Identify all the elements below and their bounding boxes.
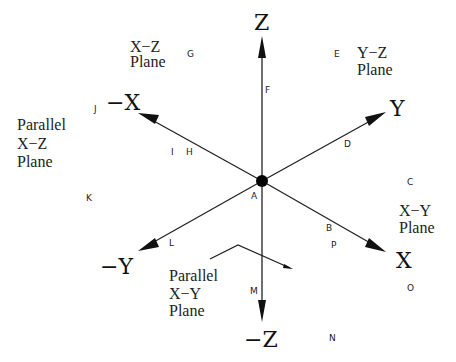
svg-text:Plane: Plane — [169, 302, 205, 319]
svg-text:Y−Z: Y−Z — [357, 44, 387, 61]
point-label-f: F — [265, 85, 270, 95]
z-arrow-head — [258, 36, 266, 58]
point-label-e: E — [334, 49, 340, 59]
parallel-xy-plane-label: Parallel X−Y Plane — [169, 267, 218, 319]
svg-text:Plane: Plane — [357, 61, 393, 78]
xy-plane-label: X−Y Plane — [399, 202, 435, 236]
parallel-xy-leader-line — [210, 245, 290, 268]
point-label-p: P — [331, 240, 337, 250]
x-arrow-head — [365, 238, 386, 252]
svg-text:Plane: Plane — [399, 219, 435, 236]
xz-plane-label: X−Z Plane — [130, 38, 166, 70]
neg-y-axis-label: −Y — [100, 254, 133, 279]
parallel-xz-plane-label: Parallel X−Z Plane — [17, 116, 66, 170]
x-axis-negative — [152, 120, 262, 181]
point-label-o: O — [407, 283, 414, 293]
point-label-g: G — [187, 49, 194, 59]
point-label-b: B — [326, 223, 332, 233]
x-axis-positive — [262, 181, 372, 244]
point-label-m: M — [250, 286, 258, 296]
point-label-l: L — [169, 238, 174, 248]
neg-z-axis-label: −Z — [244, 327, 278, 352]
yz-plane-label: Y−Z Plane — [357, 44, 393, 78]
point-label-k: K — [86, 193, 93, 203]
point-label-h: H — [186, 147, 193, 157]
svg-text:Parallel: Parallel — [169, 267, 218, 284]
neg-z-arrow-head — [258, 300, 266, 322]
origin-dot — [256, 175, 268, 187]
z-axis-label: Z — [254, 10, 269, 35]
point-label-c: C — [407, 177, 413, 187]
svg-text:Plane: Plane — [130, 53, 166, 70]
neg-y-arrow-head — [138, 238, 159, 251]
y-arrow-head — [365, 112, 386, 126]
point-label-j: J — [93, 104, 97, 114]
svg-text:X−Z: X−Z — [17, 135, 47, 152]
svg-text:Parallel: Parallel — [17, 116, 66, 133]
svg-text:Plane: Plane — [17, 153, 53, 170]
point-label-i: I — [171, 147, 174, 157]
y-axis-positive — [262, 120, 372, 181]
y-axis-label: Y — [389, 96, 405, 121]
neg-x-axis-label: −X — [106, 90, 140, 115]
parallel-xy-leader-arrow — [283, 264, 293, 269]
coordinate-axes-diagram: Z −Z Y −Y X −X X−Z Plane Y−Z Plane X−Y P… — [0, 0, 456, 362]
svg-text:X−Y: X−Y — [169, 285, 202, 302]
x-axis-label: X — [396, 248, 412, 273]
y-axis-negative — [152, 181, 262, 243]
point-label-n: N — [329, 333, 336, 343]
svg-text:X−Y: X−Y — [399, 202, 432, 219]
point-label-d: D — [344, 139, 351, 149]
point-label-a: A — [251, 191, 258, 201]
